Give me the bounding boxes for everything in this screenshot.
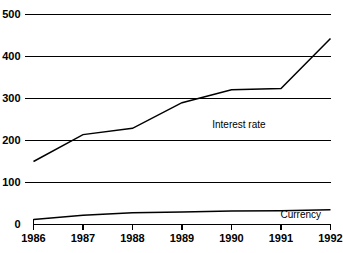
series-label-currency: Currency <box>281 209 322 220</box>
chart-canvas: 0100200300400500198619871988198919901991… <box>0 0 343 253</box>
x-tick-label-1989: 1989 <box>170 232 194 244</box>
x-axis-ticks <box>34 225 331 230</box>
line-chart: 0100200300400500198619871988198919901991… <box>0 0 343 253</box>
y-tick-label-200: 200 <box>2 134 20 146</box>
series-label-interest-rate: Interest rate <box>212 119 266 130</box>
y-tick-label-300: 300 <box>2 92 20 104</box>
x-tick-label-1991: 1991 <box>269 232 293 244</box>
x-tick-label-1992: 1992 <box>318 232 342 244</box>
gridlines <box>34 15 331 225</box>
x-tick-label-1987: 1987 <box>71 232 95 244</box>
x-tick-label-1988: 1988 <box>120 232 144 244</box>
y-tick-label-500: 500 <box>2 8 20 20</box>
x-tick-label-1986: 1986 <box>21 232 45 244</box>
y-tick-label-100: 100 <box>2 176 20 188</box>
x-tick-label-1990: 1990 <box>219 232 243 244</box>
y-axis-labels: 0100200300400500 <box>2 8 20 230</box>
x-axis-labels: 1986198719881989199019911992 <box>21 232 342 244</box>
series-annotations: Interest rateCurrency <box>212 119 321 220</box>
y-tick-label-400: 400 <box>2 50 20 62</box>
y-axis-ticks <box>25 15 34 225</box>
data-series-group <box>34 38 331 219</box>
y-tick-label-0: 0 <box>14 218 20 230</box>
